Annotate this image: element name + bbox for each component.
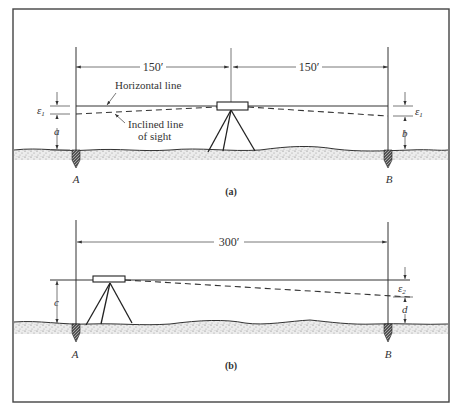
point-a-label-b: A: [71, 348, 79, 360]
level-instrument-a: [208, 102, 255, 152]
error-e1-left: ε1: [37, 104, 45, 118]
reading-a: a: [54, 125, 60, 137]
level-instrument-b: [86, 276, 132, 325]
panel-a: 150′ 150′ ε1 a ε1 b Horizontal line Incl…: [14, 47, 448, 198]
reading-d: d: [402, 303, 408, 315]
leveling-error-diagram: 150′ 150′ ε1 a ε1 b Horizontal line Incl…: [0, 0, 457, 410]
instrument-height-c: c: [54, 296, 59, 308]
dimension-left: 150′: [143, 60, 164, 74]
panel-a-caption: (a): [225, 186, 237, 198]
error-e1-right: ε1: [415, 105, 423, 119]
label-inclined-line: Inclined line: [128, 118, 183, 130]
error-e2: ε2: [398, 282, 406, 296]
inclined-line-of-sight: [76, 107, 217, 114]
stake-b-b: [384, 324, 392, 342]
dimension-right: 150′: [299, 60, 320, 74]
label-of-sight: of sight: [138, 130, 171, 142]
point-b-label: B: [386, 173, 393, 185]
point-b-label-b: B: [385, 348, 392, 360]
panel-b: 300′ c ε2 d A B (b): [14, 220, 448, 372]
stake-a-b: [72, 324, 80, 342]
dimension-300: 300′: [219, 235, 240, 249]
label-horizontal-line: Horizontal line: [115, 79, 181, 91]
panel-b-caption: (b): [225, 360, 237, 372]
point-a-label: A: [72, 173, 80, 185]
stake-a: [72, 150, 80, 168]
stake-b: [384, 150, 392, 168]
reading-b: b: [402, 127, 408, 139]
inclined-line-of-sight-b: [125, 280, 410, 297]
